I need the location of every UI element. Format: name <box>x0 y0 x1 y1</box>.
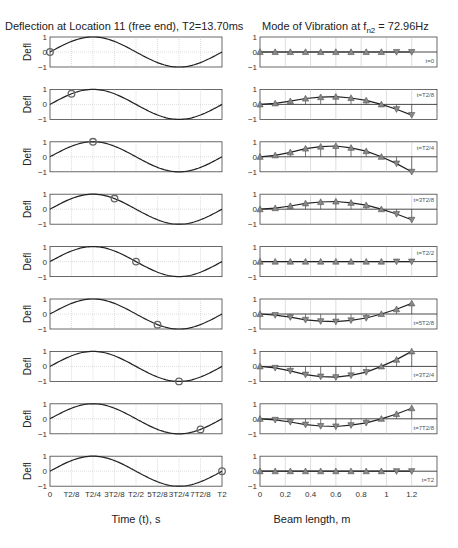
y-tick-label: 1 <box>43 295 48 304</box>
mode-shape-subplot: 10−1t=3T2/4 <box>248 347 437 386</box>
y-axis-label: Defl <box>22 148 33 166</box>
mode-shape-subplot: 10−1t=3T2/8 <box>248 190 437 229</box>
y-tick-label: 1 <box>43 138 48 147</box>
y-tick-label: −1 <box>248 325 258 334</box>
y-tick-label: 0 <box>253 153 258 162</box>
y-tick-label: 0 <box>43 310 48 319</box>
x-tick-label: 1.2 <box>406 490 418 499</box>
x-tick-label: 7T2/8 <box>190 490 211 499</box>
deflection-subplot: 10−1Defl <box>22 138 222 177</box>
right-chart-title: Mode of Vibration at fn2 = 72.96Hz <box>262 20 429 35</box>
y-tick-label: 1 <box>43 243 48 252</box>
x-tick-label: 3T2/8 <box>104 490 125 499</box>
y-tick-label: 1 <box>253 243 258 252</box>
y-tick-label: 0 <box>253 205 258 214</box>
time-label: t=7T2/8 <box>413 425 434 431</box>
y-tick-label: −1 <box>248 482 258 491</box>
deflection-subplot: 10−1Defl <box>22 85 222 124</box>
x-tick-label: 0.6 <box>330 490 342 499</box>
y-axis-label: Defl <box>22 253 33 271</box>
y-tick-label: −1 <box>248 430 258 439</box>
deflection-subplot: 10−1Defl <box>22 452 225 491</box>
y-tick-label: −1 <box>38 482 48 491</box>
x-tick-label: T2/8 <box>63 490 80 499</box>
y-tick-label: −1 <box>38 377 48 386</box>
y-tick-label: 1 <box>43 190 48 199</box>
x-tick-label: 0.4 <box>305 490 317 499</box>
figure: Deflection at Location 11 (free end), T2… <box>0 0 458 548</box>
time-label: t=0 <box>425 58 434 64</box>
x-tick-label: 0 <box>48 490 53 499</box>
y-axis-label: Defl <box>22 43 33 61</box>
y-tick-label: 0 <box>253 100 258 109</box>
x-tick-label: T2/2 <box>128 490 145 499</box>
mode-shape-subplot: 10−1t=T2/8 <box>248 85 437 124</box>
y-tick-label: 0 <box>43 153 48 162</box>
y-tick-label: 0 <box>43 467 48 476</box>
time-label: t=T2/8 <box>417 92 435 98</box>
y-tick-label: 1 <box>253 400 258 409</box>
x-tick-label: 1 <box>384 490 389 499</box>
y-tick-label: 1 <box>253 33 258 42</box>
deflection-subplot: 10−1Defl <box>22 400 222 439</box>
time-label: t=T2/2 <box>417 250 435 256</box>
y-tick-label: −1 <box>248 63 258 72</box>
y-axis-label: Defl <box>22 305 33 323</box>
y-axis-label: Defl <box>22 200 33 218</box>
y-tick-label: −1 <box>38 273 48 282</box>
y-tick-label: 0 <box>253 310 258 319</box>
y-axis-label: Defl <box>22 96 33 114</box>
left-x-axis: 0T2/8T2/43T2/8T2/25T2/83T2/47T2/8T2 <box>48 490 227 499</box>
y-tick-label: 0 <box>43 415 48 424</box>
y-tick-label: −1 <box>248 220 258 229</box>
y-tick-label: 1 <box>43 33 48 42</box>
y-tick-label: 0 <box>253 258 258 267</box>
y-tick-label: −1 <box>38 325 48 334</box>
mode-shape-subplot: 10−1t=T2/2 <box>248 243 437 282</box>
deflection-subplot: 10−1Defl <box>22 347 222 386</box>
y-tick-label: −1 <box>248 168 258 177</box>
x-tick-label: 5T2/8 <box>147 490 168 499</box>
y-tick-label: 1 <box>253 452 258 461</box>
time-label: t=3T2/8 <box>413 197 434 203</box>
y-axis-label: Defl <box>22 410 33 428</box>
y-tick-label: 1 <box>43 452 48 461</box>
mode-shape-subplot: 10−1t=5T2/8 <box>248 295 437 334</box>
mode-shape-subplot: 10−1t=7T2/8 <box>248 400 437 439</box>
y-tick-label: 1 <box>253 190 258 199</box>
y-tick-label: 1 <box>43 400 48 409</box>
y-tick-label: 0 <box>43 362 48 371</box>
x-tick-label: T2 <box>217 490 227 499</box>
right-x-axis: 00.20.40.60.811.2 <box>258 490 418 499</box>
deflection-subplot: 10−1Defl <box>22 243 222 282</box>
y-tick-label: −1 <box>38 115 48 124</box>
y-tick-label: 0 <box>253 467 258 476</box>
x-tick-label: T2/4 <box>85 490 102 499</box>
y-tick-label: −1 <box>248 115 258 124</box>
y-tick-label: −1 <box>248 273 258 282</box>
time-label: t=T2 <box>422 477 435 483</box>
deflection-subplot: 10−1Defl <box>22 295 222 334</box>
deflection-subplot: 10−1Defl <box>22 190 222 229</box>
y-tick-label: −1 <box>38 168 48 177</box>
y-tick-label: 1 <box>253 85 258 94</box>
y-tick-label: −1 <box>38 430 48 439</box>
deflection-subplot: 10−1Defl <box>22 33 222 72</box>
y-tick-label: 1 <box>253 347 258 356</box>
y-tick-label: 0 <box>43 205 48 214</box>
x-tick-label: 0.8 <box>356 490 368 499</box>
x-tick-label: 0.2 <box>280 490 292 499</box>
time-label: t=T2/4 <box>417 145 435 151</box>
y-tick-label: −1 <box>248 377 258 386</box>
y-axis-label: Defl <box>22 462 33 480</box>
y-tick-label: 1 <box>253 138 258 147</box>
y-tick-label: 0 <box>43 258 48 267</box>
subplot-grid: 10−1Defl10−1t=010−1Defl10−1t=T2/810−1Def… <box>22 33 437 491</box>
y-tick-label: 0 <box>43 100 48 109</box>
mode-shape-subplot: 10−1t=T2/4 <box>248 138 437 177</box>
y-tick-label: −1 <box>38 63 48 72</box>
right-x-axis-label: Beam length, m <box>273 513 350 525</box>
mode-shape-subplot: 10−1t=0 <box>248 33 437 72</box>
y-tick-label: 0 <box>253 415 258 424</box>
x-tick-label: 3T2/4 <box>169 490 190 499</box>
